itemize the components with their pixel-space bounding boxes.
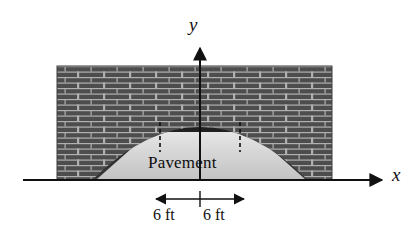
dimension-label-left: 6 ft xyxy=(153,206,175,224)
pavement-label: Pavement xyxy=(148,153,217,173)
dimension-label-right: 6 ft xyxy=(203,206,225,224)
x-axis-label: x xyxy=(392,164,400,186)
y-axis-label: y xyxy=(189,14,197,36)
